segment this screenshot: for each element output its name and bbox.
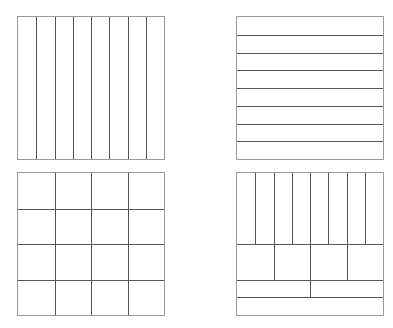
divider-line bbox=[310, 244, 311, 280]
divider-line bbox=[237, 70, 383, 71]
divider-line bbox=[237, 141, 383, 142]
divider-line bbox=[365, 173, 366, 244]
divider-line bbox=[237, 124, 383, 125]
divider-line bbox=[109, 17, 110, 159]
divider-line bbox=[274, 244, 275, 280]
divider-line bbox=[36, 17, 37, 159]
divider-line bbox=[274, 173, 275, 244]
divider-line bbox=[237, 106, 383, 107]
divider-line bbox=[73, 17, 74, 159]
divider-line bbox=[91, 17, 92, 159]
divider-line bbox=[237, 53, 383, 54]
square-vertical-eighths bbox=[17, 16, 165, 160]
divider-line bbox=[237, 88, 383, 89]
square-mixed-partition bbox=[236, 172, 384, 316]
divider-line bbox=[328, 173, 329, 244]
divider-line bbox=[255, 173, 256, 244]
divider-line bbox=[310, 173, 311, 244]
divider-line bbox=[55, 17, 56, 159]
divider-line bbox=[347, 244, 348, 280]
divider-line bbox=[292, 173, 293, 244]
divider-line bbox=[146, 17, 147, 159]
divider-line bbox=[18, 209, 164, 210]
square-grid-sixteenths bbox=[17, 172, 165, 316]
divider-line bbox=[18, 244, 164, 245]
divider-line bbox=[310, 280, 311, 298]
divider-line bbox=[237, 297, 383, 298]
divider-line bbox=[128, 17, 129, 159]
divider-line bbox=[347, 173, 348, 244]
divider-line bbox=[237, 35, 383, 36]
square-horizontal-eighths bbox=[236, 16, 384, 160]
divider-line bbox=[18, 280, 164, 281]
